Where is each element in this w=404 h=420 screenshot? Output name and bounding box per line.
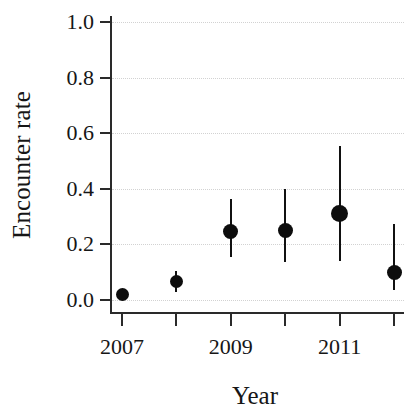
y-tick-label: 0.8 (38, 67, 94, 89)
data-point (116, 288, 129, 301)
x-axis-title: Year (110, 382, 400, 410)
gridline (112, 22, 404, 24)
y-tick-mark (100, 21, 111, 23)
x-tick-label: 2007 (77, 335, 167, 359)
y-axis-title: Encounter rate (8, 91, 36, 239)
x-tick-mark (284, 314, 286, 326)
x-tick-mark (175, 314, 177, 326)
x-axis-tick-labels: 200720092011 (0, 335, 404, 367)
plot-area (110, 18, 404, 312)
y-tick-label: 0.4 (38, 178, 94, 200)
y-tick-label: 0.6 (38, 122, 94, 144)
y-tick-mark (100, 132, 111, 134)
x-tick-mark (121, 314, 123, 326)
x-tick-label: 2011 (295, 335, 385, 359)
y-tick-label: 0.2 (38, 233, 94, 255)
gridline (112, 78, 404, 80)
y-tick-mark (100, 299, 111, 301)
x-axis-line (110, 312, 404, 314)
x-tick-label: 2009 (186, 335, 276, 359)
data-point (278, 223, 293, 238)
y-tick-label: 0.0 (38, 289, 94, 311)
y-tick-mark (100, 77, 111, 79)
gridline (112, 244, 404, 246)
encounter-rate-chart: Encounter rate 0.00.20.40.60.81.0 200720… (0, 0, 404, 420)
y-axis-tick-labels: 0.00.20.40.60.81.0 (38, 0, 94, 330)
y-tick-mark (100, 188, 111, 190)
x-tick-mark (339, 314, 341, 326)
error-bar (339, 146, 341, 261)
x-tick-mark (230, 314, 232, 326)
y-tick-mark (100, 243, 111, 245)
y-tick-label: 1.0 (38, 11, 94, 33)
gridline (112, 189, 404, 191)
gridline (112, 300, 404, 302)
gridline (112, 133, 404, 135)
error-bar (393, 224, 395, 291)
data-point (387, 265, 402, 280)
x-tick-mark (393, 314, 395, 326)
